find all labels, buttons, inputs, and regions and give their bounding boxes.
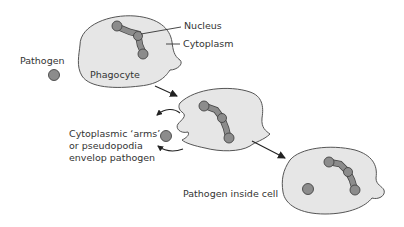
arm-arrow-top — [157, 109, 180, 115]
phagocytosis-diagram: Nucleus Cytoplasm Pathogen Phagocyte Cyt… — [0, 0, 404, 227]
label-pathogen-inside: Pathogen inside cell — [183, 188, 278, 200]
label-pathogen: Pathogen — [20, 55, 65, 67]
arrow-stage-2-to-3 — [252, 141, 285, 158]
label-arms-line-2: or pseudopodia — [69, 140, 143, 152]
arm-arrow-bottom — [158, 146, 183, 151]
arrow-stage-1-to-2 — [155, 86, 177, 96]
label-arms-line-3: envelop pathogen — [69, 152, 155, 164]
label-cytoplasm: Cytoplasm — [183, 38, 234, 50]
pathogen-free — [49, 70, 60, 81]
label-phagocyte: Phagocyte — [90, 69, 140, 81]
pathogen-internalized — [303, 184, 314, 195]
label-arms-line-1: Cytoplasmic ‘arms’ — [69, 128, 160, 140]
phagocyte-cell-3 — [282, 147, 384, 214]
label-nucleus: Nucleus — [184, 20, 222, 32]
pathogen-enveloped — [161, 131, 172, 142]
